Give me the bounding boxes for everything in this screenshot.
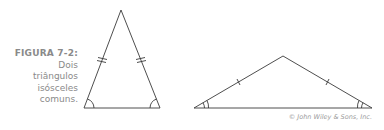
tick-mark-right [326, 79, 329, 85]
angle-arc-left [88, 99, 95, 108]
obtuse-isosceles-triangle [194, 56, 372, 108]
triangles-diagram [0, 0, 384, 130]
copyright-notice: © John Wiley & Sons, Inc. [289, 113, 372, 121]
tick-mark-left [237, 79, 240, 85]
angle-arc-right [150, 99, 157, 108]
acute-isosceles-triangle [84, 10, 160, 108]
